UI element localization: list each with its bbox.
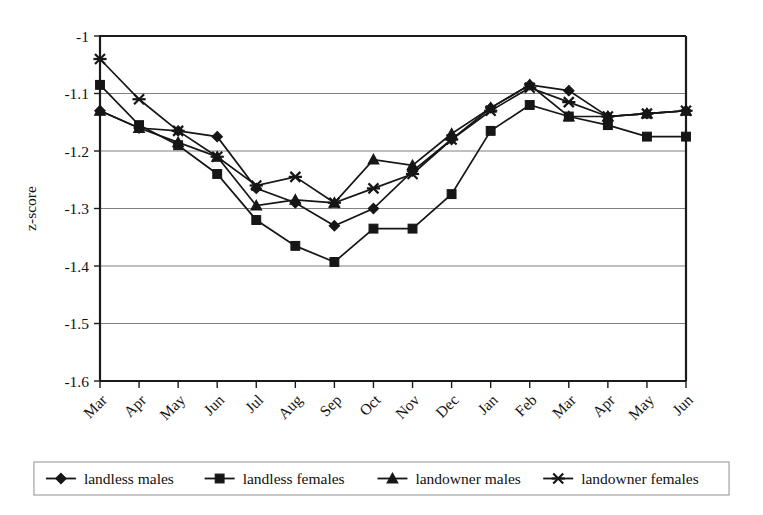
marker-square bbox=[291, 241, 300, 250]
x-tick-label: Mar bbox=[549, 391, 580, 422]
y-tick-label: -1.2 bbox=[64, 143, 89, 160]
marker-square bbox=[447, 190, 456, 199]
marker-square bbox=[682, 132, 691, 141]
legend-label: landless females bbox=[243, 470, 345, 487]
marker-square bbox=[525, 101, 534, 110]
x-tick-label: Apr bbox=[120, 391, 150, 421]
x-tick-label: Aug bbox=[275, 391, 306, 422]
chart-legend: landless maleslandless femaleslandowner … bbox=[34, 462, 729, 495]
series-landowner-females bbox=[93, 54, 692, 208]
marker-square bbox=[330, 258, 339, 267]
marker-square bbox=[213, 170, 222, 179]
marker-diamond bbox=[564, 85, 574, 95]
line-chart-figure: -1-1.1-1.2-1.3-1.4-1.5-1.6MarAprMayJunJu… bbox=[0, 0, 763, 515]
y-tick-label: -1.4 bbox=[64, 258, 89, 275]
legend-label: landless males bbox=[84, 470, 174, 487]
x-tick-label: May bbox=[625, 391, 657, 423]
series-landless-females bbox=[96, 80, 691, 266]
x-tick-label: Feb bbox=[511, 391, 540, 420]
y-axis-title: z-score bbox=[22, 186, 39, 231]
series-line bbox=[100, 85, 686, 226]
y-tick-label: -1.3 bbox=[64, 200, 89, 217]
x-tick-label: Jun bbox=[669, 391, 696, 418]
x-tick-label: Jun bbox=[200, 391, 227, 418]
x-tick-label: Jul bbox=[242, 391, 267, 416]
x-tick-label: Dec bbox=[432, 391, 462, 421]
y-tick-label: -1.6 bbox=[64, 373, 89, 390]
y-tick-label: -1.1 bbox=[64, 85, 89, 102]
x-tick-label: Jan bbox=[474, 391, 501, 418]
chart-canvas: -1-1.1-1.2-1.3-1.4-1.5-1.6MarAprMayJunJu… bbox=[0, 0, 763, 515]
marker-square bbox=[252, 216, 261, 225]
x-tick-label: Oct bbox=[356, 391, 384, 419]
marker-square bbox=[96, 80, 105, 89]
x-tick-label: Apr bbox=[589, 391, 619, 421]
series-line bbox=[100, 85, 686, 206]
x-tick-label: Nov bbox=[392, 391, 423, 422]
marker-square bbox=[603, 121, 612, 130]
y-tick-label: -1.5 bbox=[64, 315, 89, 332]
x-tick-label: Mar bbox=[80, 391, 111, 422]
legend-label: landowner females bbox=[581, 470, 699, 487]
marker-square bbox=[643, 132, 652, 141]
series-line bbox=[100, 59, 686, 203]
marker-diamond bbox=[329, 221, 339, 231]
legend-label: landowner males bbox=[415, 470, 520, 487]
marker-square bbox=[486, 126, 495, 135]
marker-triangle bbox=[368, 154, 379, 164]
marker-square bbox=[408, 224, 417, 233]
marker-square bbox=[215, 474, 224, 483]
y-tick-label: -1 bbox=[76, 28, 89, 45]
x-tick-label: May bbox=[156, 391, 188, 423]
series-line bbox=[100, 85, 686, 262]
x-tick-label: Sep bbox=[316, 391, 345, 420]
marker-square bbox=[369, 224, 378, 233]
